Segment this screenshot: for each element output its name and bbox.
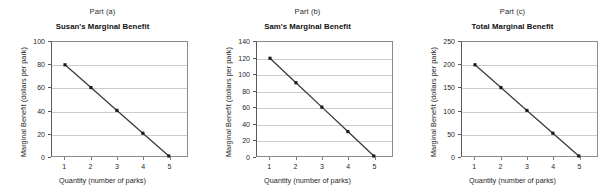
series-line <box>257 42 392 156</box>
y-tick-mark <box>48 41 51 42</box>
y-tick-mark <box>253 157 256 158</box>
y-tick-mark <box>48 111 51 112</box>
y-tick-mark <box>48 134 51 135</box>
y-tick-label: 40 <box>37 107 45 114</box>
y-tick-label: 120 <box>238 54 250 61</box>
y-tick-mark <box>48 157 51 158</box>
x-tick-mark <box>170 157 171 160</box>
y-tick-mark <box>458 87 461 88</box>
plot-wrap-b: Marginal Benefit (dollars per park) Quan… <box>205 0 410 194</box>
x-tick-mark <box>501 157 502 160</box>
y-tick-label: 0 <box>41 154 45 161</box>
y-tick-label: 20 <box>242 137 250 144</box>
x-tick-label: 5 <box>373 163 377 170</box>
y-tick-label: 140 <box>238 38 250 45</box>
y-tick-label: 200 <box>443 61 455 68</box>
x-tick-label: 5 <box>578 163 582 170</box>
y-tick-label: 80 <box>242 87 250 94</box>
x-tick-mark <box>527 157 528 160</box>
x-tick-mark <box>296 157 297 160</box>
x-tick-mark <box>580 157 581 160</box>
y-tick-mark <box>458 41 461 42</box>
y-tick-label: 100 <box>33 38 45 45</box>
y-tick-label: 150 <box>443 84 455 91</box>
y-tick-label: 60 <box>242 104 250 111</box>
y-tick-mark <box>253 74 256 75</box>
data-point-marker <box>115 109 118 112</box>
x-tick-label: 1 <box>62 163 66 170</box>
x-tick-mark <box>269 157 270 160</box>
x-tick-label: 2 <box>294 163 298 170</box>
plot-wrap-a: Marginal Benefit (dollars per park) Quan… <box>0 0 205 194</box>
x-tick-mark <box>474 157 475 160</box>
x-tick-label: 4 <box>141 163 145 170</box>
x-tick-label: 5 <box>168 163 172 170</box>
y-tick-label: 0 <box>451 154 455 161</box>
y-tick-label: 250 <box>443 38 455 45</box>
data-point-marker <box>499 86 502 89</box>
x-tick-mark <box>322 157 323 160</box>
x-tick-mark <box>143 157 144 160</box>
y-tick-label: 40 <box>242 120 250 127</box>
data-point-marker <box>346 130 349 133</box>
data-point-marker <box>268 57 271 60</box>
x-tick-label: 1 <box>472 163 476 170</box>
chart-panel-b: Part (b) Sam's Marginal Benefit Marginal… <box>205 0 410 194</box>
y-tick-mark <box>48 87 51 88</box>
data-point-marker <box>294 81 297 84</box>
data-point-marker <box>473 63 476 66</box>
y-tick-mark <box>253 124 256 125</box>
data-point-marker <box>63 63 66 66</box>
plot-area-a <box>51 41 188 157</box>
x-tick-label: 4 <box>346 163 350 170</box>
marginal-benefit-figure: Part (a) Susan's Marginal Benefit Margin… <box>0 0 615 194</box>
plot-wrap-c: Marginal Benefit (dollars per park) Quan… <box>410 0 615 194</box>
y-tick-label: 100 <box>443 107 455 114</box>
x-axis-title-b: Quantity (number of parks) <box>205 176 410 185</box>
plot-area-b <box>256 41 393 157</box>
x-tick-label: 3 <box>320 163 324 170</box>
y-tick-mark <box>253 91 256 92</box>
y-axis-title-c: Marginal Benefit (dollars per park) <box>429 47 438 157</box>
series-line <box>462 42 597 156</box>
y-tick-mark <box>458 64 461 65</box>
x-tick-label: 4 <box>551 163 555 170</box>
x-tick-mark <box>553 157 554 160</box>
data-point-marker <box>320 106 323 109</box>
x-tick-mark <box>64 157 65 160</box>
y-tick-label: 60 <box>37 84 45 91</box>
y-tick-mark <box>458 111 461 112</box>
y-axis-title-a: Marginal Benefit (dollars per park) <box>19 47 28 157</box>
x-tick-label: 3 <box>525 163 529 170</box>
x-tick-mark <box>375 157 376 160</box>
x-tick-mark <box>91 157 92 160</box>
x-tick-label: 3 <box>115 163 119 170</box>
plot-area-c <box>461 41 598 157</box>
y-tick-label: 100 <box>238 71 250 78</box>
x-tick-label: 2 <box>499 163 503 170</box>
x-tick-mark <box>348 157 349 160</box>
series-line <box>52 42 187 156</box>
x-tick-label: 1 <box>267 163 271 170</box>
y-tick-mark <box>253 41 256 42</box>
x-axis-title-c: Quantity (number of parks) <box>410 176 615 185</box>
y-tick-mark <box>253 140 256 141</box>
x-tick-mark <box>117 157 118 160</box>
y-axis-title-b: Marginal Benefit (dollars per park) <box>224 47 233 157</box>
y-tick-label: 50 <box>447 130 455 137</box>
data-point-marker <box>141 132 144 135</box>
data-point-marker <box>525 109 528 112</box>
y-tick-label: 80 <box>37 61 45 68</box>
y-tick-mark <box>253 58 256 59</box>
data-point-marker <box>551 132 554 135</box>
y-tick-mark <box>458 157 461 158</box>
chart-panel-a: Part (a) Susan's Marginal Benefit Margin… <box>0 0 205 194</box>
y-tick-mark <box>253 107 256 108</box>
x-tick-label: 2 <box>89 163 93 170</box>
x-axis-title-a: Quantity (number of parks) <box>0 176 205 185</box>
data-point-marker <box>89 86 92 89</box>
y-tick-label: 20 <box>37 130 45 137</box>
y-tick-label: 0 <box>246 154 250 161</box>
y-tick-mark <box>458 134 461 135</box>
y-tick-mark <box>48 64 51 65</box>
